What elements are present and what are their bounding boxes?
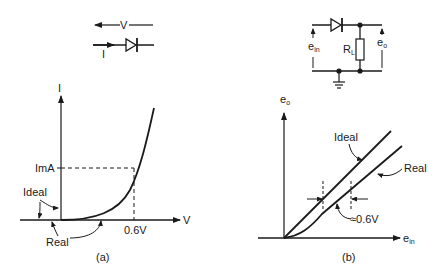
diode-icon: [331, 18, 342, 32]
caption-b: (b): [342, 251, 355, 263]
x-axis-label-b: ein: [403, 232, 415, 245]
rectifier-circuit: RL ein eo: [308, 18, 387, 88]
ideal-label-a: Ideal: [23, 186, 47, 198]
resistor-icon: [356, 39, 364, 60]
voltage-marker-label: 0.6V: [124, 224, 147, 236]
diode-symbol-a: V I: [93, 19, 154, 60]
ground-icon: [333, 71, 345, 88]
y-axis-label: I: [58, 82, 61, 94]
real-curve-a: [61, 108, 154, 220]
current-label: I: [102, 48, 105, 60]
resistor-label: RL: [343, 43, 355, 56]
y-axis-label-b: eo: [280, 93, 290, 106]
output-voltage-label: eo: [377, 36, 387, 49]
axes-b: eo ein: [258, 93, 415, 245]
voltage-label: V: [120, 19, 128, 31]
x-axis-label: V: [183, 214, 191, 226]
figure-a: V I I V ImA 0.6V Ideal: [20, 19, 191, 263]
real-label-a: Real: [46, 236, 69, 248]
caption-a: (a): [96, 251, 109, 263]
real-label-b: Real: [404, 162, 427, 174]
ideal-label-b: Ideal: [334, 131, 358, 143]
offset-label: ≈0.6V: [350, 213, 379, 225]
real-curve-b: [284, 146, 402, 238]
axes-a: I V: [20, 82, 191, 226]
diode-icon: [126, 38, 137, 52]
input-voltage-label: ein: [308, 40, 320, 53]
figure-b: RL ein eo eo ein: [258, 18, 427, 263]
current-marker-label: ImA: [35, 162, 55, 174]
